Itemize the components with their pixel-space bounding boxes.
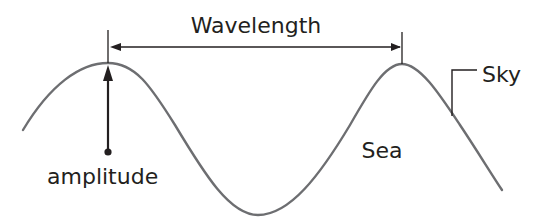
wave-diagram-canvas: Wavelength amplitude Sky Sea bbox=[0, 0, 552, 217]
wavelength-arrowhead-left bbox=[110, 43, 121, 51]
amplitude-dot bbox=[104, 148, 111, 155]
sky-leader-line bbox=[452, 70, 477, 116]
sea-label: Sea bbox=[362, 138, 403, 163]
wave-diagram: Wavelength amplitude Sky Sea bbox=[0, 0, 552, 217]
wave-line bbox=[23, 63, 502, 215]
wavelength-label: Wavelength bbox=[191, 13, 322, 38]
amplitude-arrowhead bbox=[103, 65, 113, 81]
sky-label: Sky bbox=[482, 62, 521, 87]
amplitude-label: amplitude bbox=[47, 164, 158, 189]
